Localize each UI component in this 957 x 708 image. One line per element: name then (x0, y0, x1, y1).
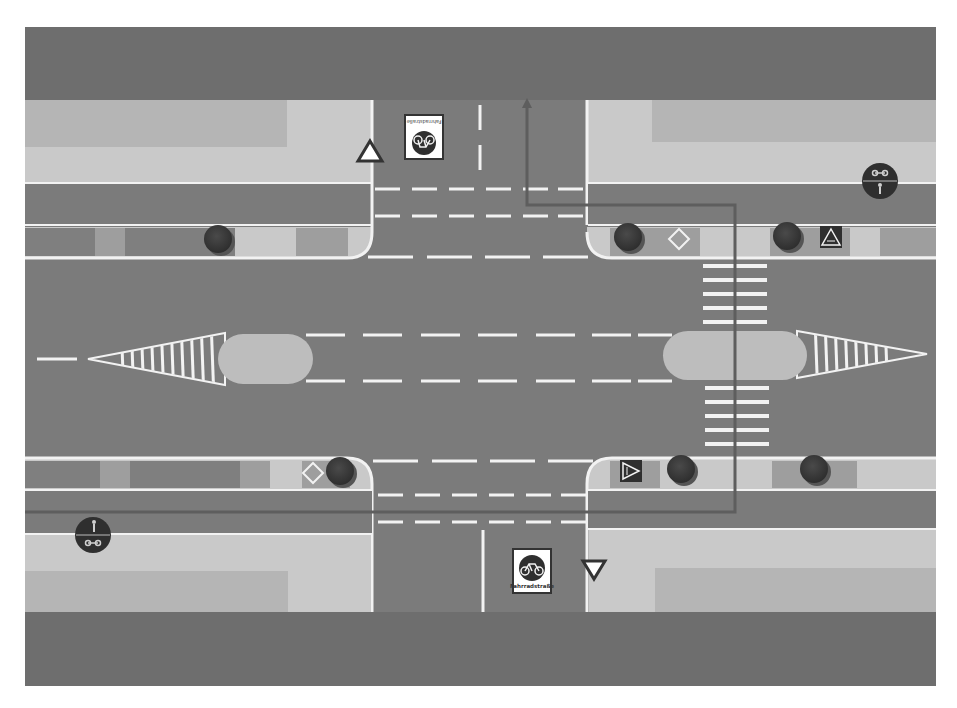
shared-path-sign-ne (862, 163, 898, 199)
priority-road-sign-ne (668, 228, 690, 250)
intersection-diagram: Fahrradstraße Fahrradstraße (0, 0, 957, 708)
fahrradstrasse-label-top: Fahrradstraße (407, 119, 442, 125)
fahrradstrasse-label-bottom: Fahrradstraße (510, 583, 554, 589)
pedestrian-crossing-sign-se (620, 460, 642, 482)
fahrradstrasse-sign-bottom: Fahrradstraße (510, 549, 554, 593)
block-top-left (25, 100, 372, 258)
pedestrian-crossing-sign-ne (820, 226, 842, 248)
bottom-band (25, 612, 936, 686)
fahrradstrasse-sign-top: Fahrradstraße (405, 115, 443, 159)
top-band (25, 27, 936, 100)
shared-path-sign-sw (75, 517, 111, 553)
